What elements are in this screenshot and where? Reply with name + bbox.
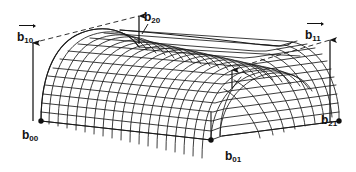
label-b21-sub: 21: [328, 119, 337, 128]
label-b10-sub: 10: [24, 36, 33, 45]
label-b01-sub: 01: [232, 155, 241, 164]
mesh-surface: [41, 29, 339, 158]
label-b01: b01: [225, 147, 241, 163]
surface-wireframe-figure: [0, 0, 356, 172]
label-b20: b20: [144, 8, 160, 24]
label-b20-sub: 20: [151, 16, 160, 25]
label-b11: b11: [305, 26, 321, 42]
label-b00-sub: 00: [29, 134, 38, 143]
mesh-ridge-line: [120, 30, 292, 46]
label-b00: b00: [22, 126, 38, 142]
point-b00: [38, 118, 43, 123]
point-b01: [208, 137, 213, 142]
left-dashed-ridge: [32, 16, 139, 43]
label-b11-sub: 11: [312, 34, 320, 43]
label-b21: b21: [321, 111, 337, 127]
corner-point-markers: [38, 118, 341, 142]
b10-vector-arrow: [19, 25, 35, 26]
label-b10: b10: [17, 28, 33, 44]
b11-vector-arrow: [307, 23, 323, 24]
